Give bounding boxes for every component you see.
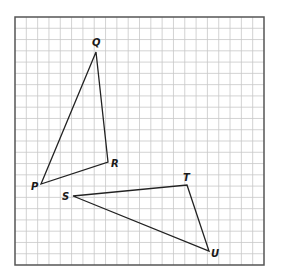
vertex-label-p: P [31,181,39,192]
triangle-stu [73,185,209,251]
vertex-label-r: R [111,158,119,169]
vertex-label-u: U [211,248,219,259]
grid-lines [15,17,264,265]
vertex-label-q: Q [92,37,101,48]
triangle-grid-diagram: P Q R S T U [0,0,282,279]
vertex-label-s: S [62,191,69,202]
vertex-label-t: T [183,172,191,183]
triangle-pqr [41,52,108,184]
